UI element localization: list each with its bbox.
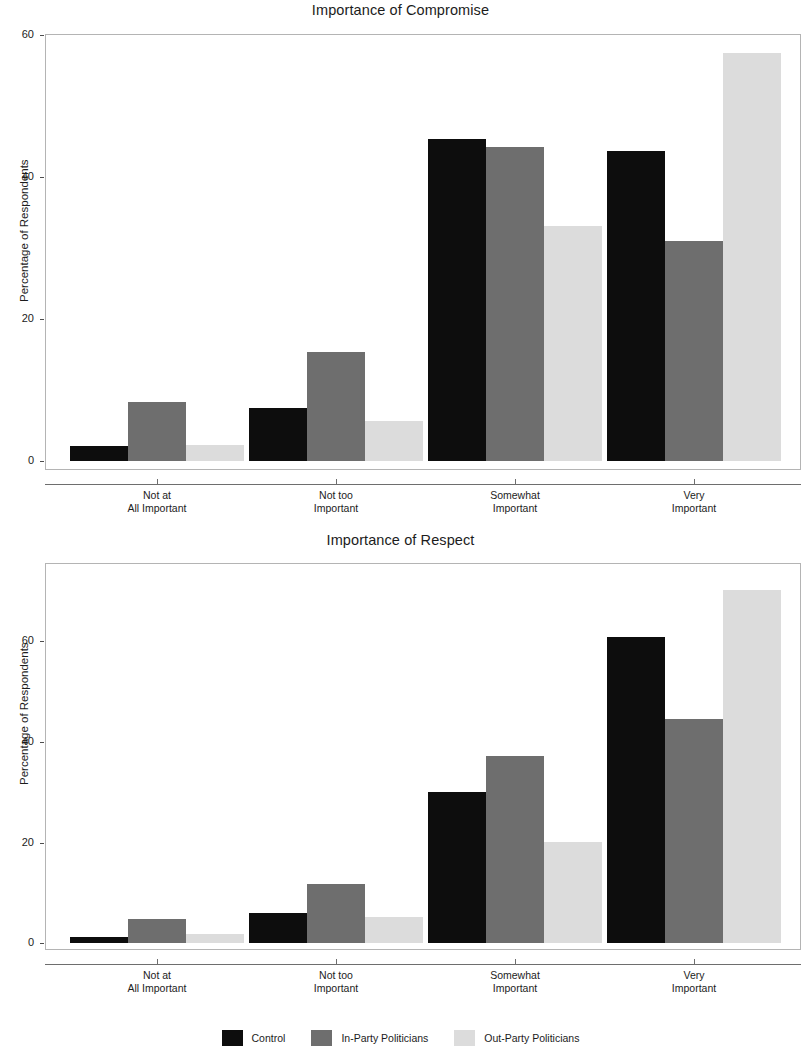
figure-root: Importance of Compromise Percentage of R… (0, 0, 801, 1057)
y-tick-label: 20 (0, 312, 34, 324)
x-tick-mark (336, 479, 337, 484)
y-tick-label: 0 (0, 454, 34, 466)
bar (665, 241, 723, 461)
bar (186, 445, 244, 461)
x-tick-label: SomewhatImportant (490, 489, 540, 515)
y-tick-label: 60 (0, 28, 34, 40)
x-tick-mark (515, 479, 516, 484)
x-tick-label-line: Important (314, 502, 358, 515)
bar (544, 226, 602, 461)
x-tick-label-line: Not too (314, 489, 358, 502)
x-tick-label-line: Not too (314, 969, 358, 982)
y-tick-mark (40, 641, 44, 642)
y-tick-mark (40, 461, 44, 462)
y-tick-label: 20 (0, 836, 34, 848)
x-tick-label: VeryImportant (672, 489, 716, 515)
x-tick-label-line: Very (672, 969, 716, 982)
y-tick-mark (40, 943, 44, 944)
x-tick-mark (694, 959, 695, 964)
x-tick-label-line: Not at (128, 969, 187, 982)
bar (249, 408, 307, 461)
legend-item: In-Party Politicians (311, 1030, 428, 1046)
x-tick-mark (694, 479, 695, 484)
bar (70, 937, 128, 943)
x-tick-label-line: All Important (128, 982, 187, 995)
x-tick-label-line: Somewhat (490, 969, 540, 982)
legend-item: Out-Party Politicians (454, 1030, 579, 1046)
legend-label: Out-Party Politicians (484, 1032, 579, 1044)
x-tick-label: VeryImportant (672, 969, 716, 995)
x-tick-label-line: Very (672, 489, 716, 502)
x-tick-label: Not tooImportant (314, 489, 358, 515)
bar (128, 919, 186, 944)
x-tick-label: Not atAll Important (128, 969, 187, 995)
bars-respect (0, 530, 801, 943)
legend-item: Control (222, 1030, 286, 1046)
x-tick-label: SomewhatImportant (490, 969, 540, 995)
x-tick-label-line: Somewhat (490, 489, 540, 502)
bar (665, 719, 723, 943)
legend-label: Control (252, 1032, 286, 1044)
chart-panel-compromise: Importance of Compromise Percentage of R… (0, 0, 801, 524)
y-tick-label: 60 (0, 634, 34, 646)
bar (607, 151, 665, 461)
x-axis-line (45, 484, 801, 485)
x-tick-mark (157, 479, 158, 484)
bar (723, 53, 781, 461)
bar (428, 792, 486, 943)
bars-compromise (0, 0, 801, 461)
y-tick-label: 40 (0, 735, 34, 747)
legend-swatch-icon (454, 1030, 475, 1046)
bar (723, 590, 781, 944)
y-tick-mark (40, 742, 44, 743)
x-tick-mark (157, 959, 158, 964)
y-tick-mark (40, 177, 44, 178)
bar (365, 917, 423, 944)
bar (544, 842, 602, 943)
bar (607, 637, 665, 943)
y-tick-mark (40, 319, 44, 320)
bar (365, 421, 423, 461)
y-tick-label: 40 (0, 170, 34, 182)
legend-label: In-Party Politicians (341, 1032, 428, 1044)
bar (307, 884, 365, 943)
bar (186, 934, 244, 943)
legend-swatch-icon (311, 1030, 332, 1046)
x-tick-label: Not tooImportant (314, 969, 358, 995)
legend-swatch-icon (222, 1030, 243, 1046)
bar (486, 147, 544, 461)
x-tick-label-line: Important (314, 982, 358, 995)
bar (428, 139, 486, 461)
x-tick-label: Not atAll Important (128, 489, 187, 515)
bar (249, 913, 307, 944)
bar (307, 352, 365, 461)
x-tick-mark (336, 959, 337, 964)
x-tick-label-line: Important (672, 502, 716, 515)
chart-legend: ControlIn-Party PoliticiansOut-Party Pol… (0, 1030, 801, 1046)
y-tick-label: 0 (0, 936, 34, 948)
bar (128, 402, 186, 461)
x-tick-label-line: Important (672, 982, 716, 995)
x-tick-label-line: All Important (128, 502, 187, 515)
x-axis-line (45, 964, 801, 965)
x-tick-mark (515, 959, 516, 964)
y-tick-mark (40, 843, 44, 844)
bar (486, 756, 544, 943)
x-tick-label-line: Important (490, 502, 540, 515)
x-tick-label-line: Important (490, 982, 540, 995)
bar (70, 446, 128, 461)
x-tick-label-line: Not at (128, 489, 187, 502)
chart-panel-respect: Importance of Respect Percentage of Resp… (0, 530, 801, 1020)
y-tick-mark (40, 35, 44, 36)
